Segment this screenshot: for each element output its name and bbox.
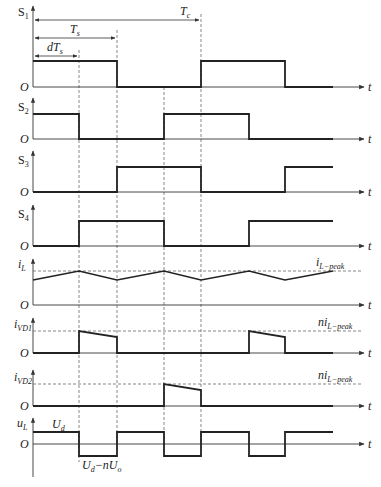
svg-text:Ud−nUo: Ud−nUo bbox=[82, 458, 121, 474]
svg-text:O: O bbox=[20, 239, 29, 253]
svg-text:Ts: Ts bbox=[70, 22, 80, 38]
svg-text:t: t bbox=[368, 346, 372, 360]
svg-text:t: t bbox=[368, 399, 372, 413]
dimension-dTs: dTs bbox=[35, 40, 77, 56]
svg-text:O: O bbox=[20, 437, 29, 451]
dimension-Tc: Tc bbox=[35, 4, 199, 20]
svg-text:O: O bbox=[20, 80, 29, 94]
trace-S4: S4 O t bbox=[18, 205, 372, 253]
svg-text:Ud: Ud bbox=[52, 417, 66, 433]
svg-text:t: t bbox=[368, 185, 372, 199]
svg-text:S2: S2 bbox=[18, 100, 29, 116]
dimension-Ts: Ts bbox=[35, 22, 115, 38]
waveform-diagram: Tc Ts dTs S1 O t S2 O t S3 O t S4 bbox=[0, 0, 381, 487]
svg-text:niL−peak: niL−peak bbox=[318, 368, 353, 384]
svg-text:S4: S4 bbox=[18, 207, 29, 223]
svg-text:t: t bbox=[368, 132, 372, 146]
svg-text:Tc: Tc bbox=[180, 4, 191, 20]
svg-text:niL−peak: niL−peak bbox=[318, 315, 353, 331]
svg-text:O: O bbox=[20, 185, 29, 199]
svg-text:S3: S3 bbox=[18, 153, 29, 169]
svg-text:S1: S1 bbox=[18, 5, 29, 21]
svg-text:O: O bbox=[20, 298, 29, 312]
svg-text:iVD2: iVD2 bbox=[14, 370, 32, 386]
svg-text:uL: uL bbox=[17, 416, 28, 432]
trace-iVD2: iVD2 niL−peak O t bbox=[14, 368, 372, 413]
trace-S2: S2 O t bbox=[18, 98, 372, 146]
trace-uL: uL Ud O t Ud−nUo bbox=[17, 416, 372, 477]
svg-text:O: O bbox=[20, 346, 29, 360]
svg-text:t: t bbox=[368, 298, 372, 312]
guide-lines bbox=[79, 14, 201, 462]
trace-S3: S3 O t bbox=[18, 151, 372, 199]
trace-iVD1: iVD1 niL−peak O t bbox=[14, 315, 372, 360]
trace-iL: iL iL−peak O t bbox=[18, 255, 372, 312]
trace-S1: S1 O t bbox=[18, 5, 372, 94]
svg-text:O: O bbox=[20, 399, 29, 413]
svg-text:t: t bbox=[368, 437, 372, 451]
svg-text:dTs: dTs bbox=[47, 40, 63, 56]
svg-text:iL−peak: iL−peak bbox=[316, 255, 345, 271]
svg-text:t: t bbox=[368, 80, 372, 94]
svg-text:O: O bbox=[20, 132, 29, 146]
svg-text:iVD1: iVD1 bbox=[14, 317, 32, 333]
svg-text:iL: iL bbox=[18, 257, 26, 273]
svg-text:t: t bbox=[368, 239, 372, 253]
